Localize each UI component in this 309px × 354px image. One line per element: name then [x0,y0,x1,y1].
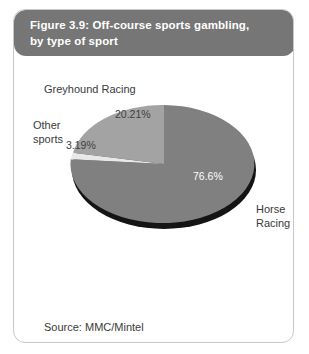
source-note: Source: MMC/Mintel [44,321,144,333]
figure-title-line-1: Figure 3.9: Off-course sports gambling, [30,17,294,33]
figure-card: Figure 3.9: Off-course sports gambling, … [13,9,294,343]
figure-header: Figure 3.9: Off-course sports gambling, … [14,10,294,56]
slice-value-other-sports: 3.19% [66,139,96,152]
pie-chart: Greyhound Racing Othersports HorseRacing… [14,56,294,343]
slice-label-greyhound-racing: Greyhound Racing [44,83,136,97]
slice-label-horse-racing: HorseRacing [256,202,290,230]
slice-value-horse-racing: 76.6% [193,170,223,183]
pie-chart-svg [14,56,294,343]
figure-title-line-2: by type of sport [30,33,294,49]
slice-value-greyhound-racing: 20.21% [115,108,151,121]
slice-label-other-sports: Othersports [33,118,63,146]
